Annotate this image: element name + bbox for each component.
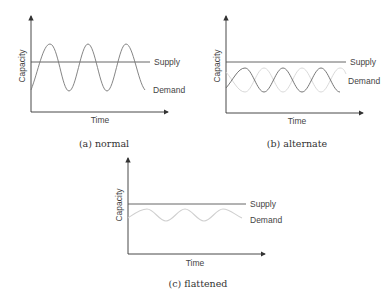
panel-c: Capacity Time Supply Demand (c) flattene… bbox=[114, 158, 282, 289]
supply-label: Supply bbox=[250, 199, 277, 209]
x-axis-label: Time bbox=[288, 116, 307, 126]
demand-curve bbox=[128, 209, 242, 221]
x-axis-label: Time bbox=[186, 258, 205, 268]
caption: (c) flattened bbox=[169, 278, 228, 289]
y-axis-label: Capacity bbox=[17, 49, 27, 83]
demand-curve bbox=[31, 44, 145, 91]
caption: (b) alternate bbox=[267, 138, 328, 149]
panel-a: Capacity Time Supply Demand (a) normal bbox=[17, 16, 185, 149]
caption: (a) normal bbox=[79, 138, 129, 149]
demand-curve bbox=[226, 68, 340, 92]
panel-b: Capacity Time Supply Demand (b) alternat… bbox=[212, 16, 380, 149]
figure: Capacity Time Supply Demand (a) normal C… bbox=[0, 0, 391, 301]
y-axis-label: Capacity bbox=[212, 49, 222, 83]
supply-label: Supply bbox=[350, 57, 377, 67]
supply-label: Supply bbox=[154, 57, 181, 67]
x-axis-label: Time bbox=[91, 115, 110, 125]
demand-label: Demand bbox=[348, 76, 380, 86]
demand-label: Demand bbox=[250, 215, 282, 225]
demand-curve-shifted bbox=[226, 68, 346, 92]
demand-label: Demand bbox=[153, 85, 185, 95]
y-axis-label: Capacity bbox=[114, 188, 124, 222]
